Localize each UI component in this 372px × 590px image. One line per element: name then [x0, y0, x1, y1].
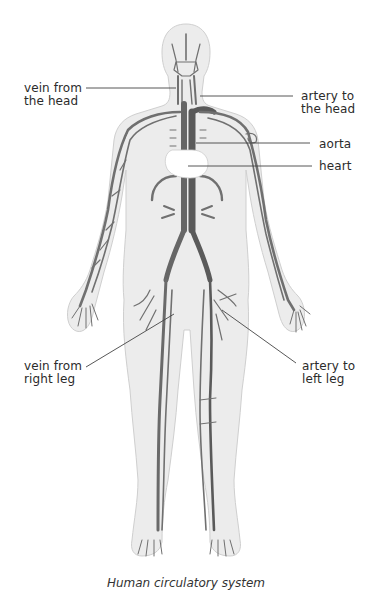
label-vein-from-right-leg: vein from right leg: [24, 360, 82, 386]
label-artery-to-head: artery to the head: [301, 90, 355, 116]
heart-shape: [165, 150, 208, 178]
label-vein-from-head: vein from the head: [24, 82, 82, 108]
label-heart: heart: [319, 160, 351, 173]
label-aorta: aorta: [319, 138, 351, 151]
figure-caption: Human circulatory system: [0, 576, 372, 590]
label-artery-to-left-leg: artery to left leg: [302, 360, 355, 386]
